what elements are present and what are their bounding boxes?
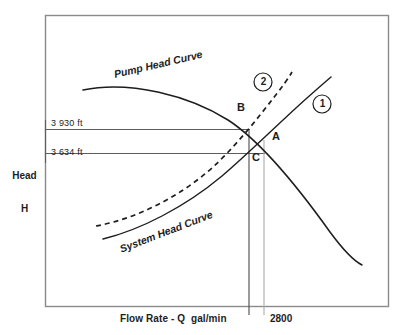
pump-curve-figure: 3 930 ft 3 634 ft Head H Flow Rate - Q g… [0, 0, 401, 335]
callout-label-2: 2 [259, 76, 268, 87]
point-label-a: A [272, 130, 280, 142]
point-label-c: C [252, 151, 260, 163]
y-axis-label: Head H [6, 148, 43, 236]
tick-label-lower-head: 3 634 ft [51, 147, 83, 157]
x-axis-label: Flow Rate - Q gal/min [120, 313, 227, 324]
tick-label-upper-head: 3 930 ft [51, 118, 83, 128]
system-head-curve-solid [103, 77, 331, 239]
y-axis-label-line2: H [6, 203, 43, 214]
point-label-b: B [237, 101, 245, 113]
x-axis-tick-2800: 2800 [270, 313, 292, 324]
y-axis-label-line1: Head [6, 170, 43, 181]
chart-frame [46, 16, 389, 307]
callout-label-1: 1 [318, 98, 327, 109]
